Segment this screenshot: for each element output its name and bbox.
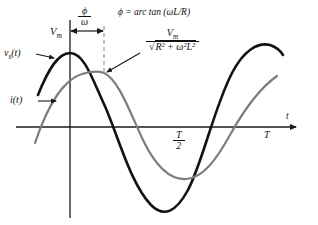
voltage-curve-label: vs(t) <box>4 47 21 61</box>
current-waveform <box>35 72 277 179</box>
current-symbol-arg: (t) <box>13 94 22 105</box>
half-period-label: T 2 <box>173 130 185 151</box>
period-label: T <box>264 129 270 140</box>
phase-fraction-numerator: ϕ <box>78 6 91 16</box>
voltage-waveform <box>38 44 283 211</box>
waveform-figure: ϕ ω ϕ = arc tan (ωL/R) Vm Vm √R² + ω²L² … <box>0 0 318 225</box>
current-curve-label: i(t) <box>10 94 22 105</box>
voltage-label-arrow <box>36 54 54 58</box>
half-period-numerator: T <box>173 130 185 140</box>
time-axis-label: t <box>286 111 289 121</box>
amplitude-pointer-arrow <box>107 53 140 72</box>
current-amplitude-expression: Vm √R² + ω²L² <box>146 28 199 52</box>
peak-voltage-label: Vm <box>50 26 62 40</box>
half-period-denominator: 2 <box>173 140 185 151</box>
phase-shift-fraction: ϕ ω <box>78 6 91 27</box>
peak-voltage-subscript: m <box>56 31 61 40</box>
phase-fraction-denominator: ω <box>78 16 91 27</box>
amplitude-denominator: √R² + ω²L² <box>146 41 199 52</box>
phase-formula: ϕ = arc tan (ωL/R) <box>118 7 190 17</box>
amplitude-radicand: R² + ω²L² <box>155 40 196 52</box>
voltage-symbol-arg: (t) <box>11 47 20 58</box>
